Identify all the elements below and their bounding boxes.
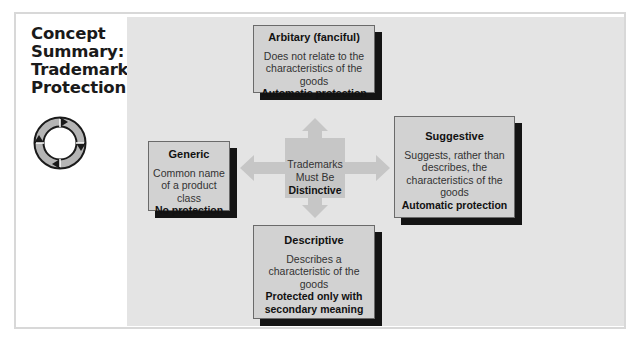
box-protection: No protection bbox=[149, 204, 229, 217]
box-description: Suggests, rather than describes, the cha… bbox=[395, 149, 514, 199]
box-protection: Protected only with secondary meaning bbox=[254, 290, 374, 315]
title-line: Protection bbox=[31, 79, 131, 97]
box-title: Arbitary (fanciful) bbox=[254, 31, 374, 44]
center-line: Trademarks bbox=[276, 158, 354, 171]
center-emphasis: Distinctive bbox=[276, 184, 354, 197]
descriptive-box: Descriptive Describes a characteristic o… bbox=[253, 225, 375, 319]
box-title: Descriptive bbox=[254, 234, 374, 247]
concept-summary-title: Concept Summary: Trademark Protection bbox=[31, 25, 131, 97]
title-line: Concept bbox=[31, 25, 131, 43]
box-description: Describes a characteristic of the goods bbox=[254, 253, 374, 291]
box-description: Common name of a product class bbox=[149, 167, 229, 205]
box-protection: Automatic protection bbox=[395, 199, 514, 212]
cycle-arrows-icon bbox=[30, 113, 90, 173]
box-description: Does not relate to the characteristics o… bbox=[254, 50, 374, 88]
arbitrary-box: Arbitary (fanciful) Does not relate to t… bbox=[253, 25, 375, 93]
title-line: Trademark bbox=[31, 61, 131, 79]
center-line: Must Be bbox=[276, 171, 354, 184]
title-line: Summary: bbox=[31, 43, 131, 61]
generic-box: Generic Common name of a product class N… bbox=[148, 141, 230, 211]
suggestive-box: Suggestive Suggests, rather than describ… bbox=[394, 116, 515, 218]
box-title: Generic bbox=[149, 148, 229, 161]
center-label: Trademarks Must Be Distinctive bbox=[276, 158, 354, 197]
box-title: Suggestive bbox=[395, 130, 514, 143]
box-protection: Automatic protection bbox=[254, 87, 374, 100]
